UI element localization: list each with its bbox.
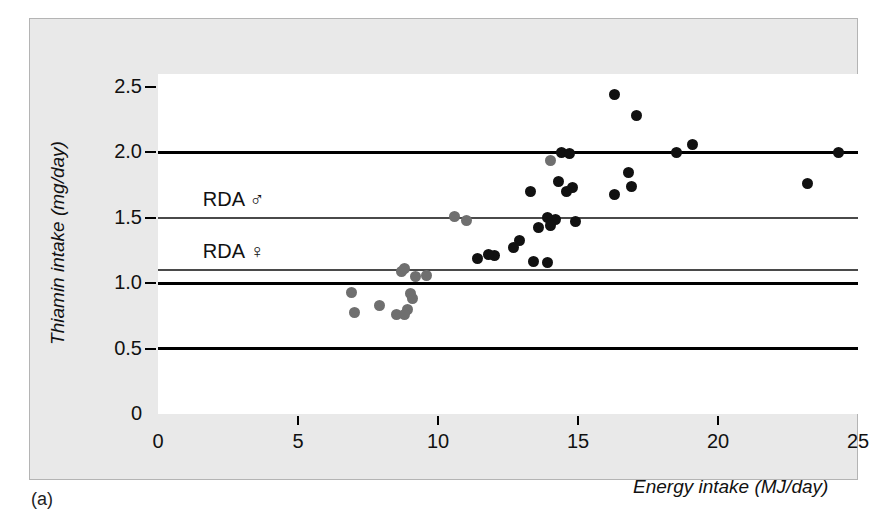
data-point (461, 215, 472, 226)
x-axis-title: Energy intake (MJ/day) (633, 476, 828, 498)
data-point (410, 271, 421, 282)
y-tick-label: 2.5 (92, 76, 142, 96)
data-point (528, 256, 539, 267)
y-tick-mark (145, 86, 156, 88)
data-point (542, 257, 553, 268)
reference-line-rda-female (158, 269, 858, 271)
data-point (508, 242, 519, 253)
x-tick-mark (717, 416, 719, 425)
x-tick-mark (297, 416, 299, 425)
figure-page: Thiamin intake (mg/day) RDA ♂RDA ♀ Energ… (0, 0, 887, 529)
data-point (346, 287, 357, 298)
label-rda-female: RDA ♀ (203, 240, 265, 263)
x-tick-label: 0 (138, 431, 178, 451)
y-tick-label: 0.5 (92, 338, 142, 358)
y-tick-mark (145, 217, 156, 219)
plot-area: RDA ♂RDA ♀ (158, 74, 858, 414)
data-point (399, 263, 410, 274)
data-point (802, 178, 813, 189)
data-point (374, 300, 385, 311)
x-tick-label: 20 (698, 431, 738, 451)
data-point (472, 253, 483, 264)
x-tick-label: 5 (278, 431, 318, 451)
data-point (407, 293, 418, 304)
data-point (553, 176, 564, 187)
y-tick-mark (145, 151, 156, 153)
data-point (833, 147, 844, 158)
y-tick-mark (145, 348, 156, 350)
data-point (671, 147, 682, 158)
reference-line-rda-male (158, 217, 858, 219)
reference-line-line-1-0 (158, 282, 858, 285)
data-point (449, 211, 460, 222)
data-point (545, 220, 556, 231)
data-point (564, 148, 575, 159)
y-tick-label: 1.5 (92, 207, 142, 227)
data-point (623, 167, 634, 178)
y-tick-mark (145, 282, 156, 284)
data-point (631, 110, 642, 121)
reference-line-line-2-0 (158, 151, 858, 154)
data-point (525, 186, 536, 197)
data-point (533, 222, 544, 233)
data-point (483, 249, 494, 260)
data-point (349, 307, 360, 318)
data-point (609, 89, 620, 100)
figure-panel: Thiamin intake (mg/day) RDA ♂RDA ♀ Energ… (29, 18, 858, 480)
y-tick-label: 0 (92, 403, 142, 423)
data-point (561, 186, 572, 197)
x-tick-mark (437, 416, 439, 425)
reference-line-line-0-5 (158, 347, 858, 350)
label-rda-male: RDA ♂ (203, 188, 265, 211)
data-point (570, 216, 581, 227)
y-tick-label: 2.0 (92, 141, 142, 161)
x-tick-mark (577, 416, 579, 425)
data-point (399, 309, 410, 320)
data-point (626, 181, 637, 192)
y-tick-label: 1.0 (92, 272, 142, 292)
data-point (421, 270, 432, 281)
x-tick-label: 15 (558, 431, 598, 451)
data-point (687, 139, 698, 150)
panel-caption: (a) (31, 489, 53, 510)
y-axis-title: Thiamin intake (mg/day) (47, 78, 69, 408)
data-point (609, 189, 620, 200)
x-tick-label: 25 (838, 431, 878, 451)
data-point (545, 155, 556, 166)
x-tick-label: 10 (418, 431, 458, 451)
